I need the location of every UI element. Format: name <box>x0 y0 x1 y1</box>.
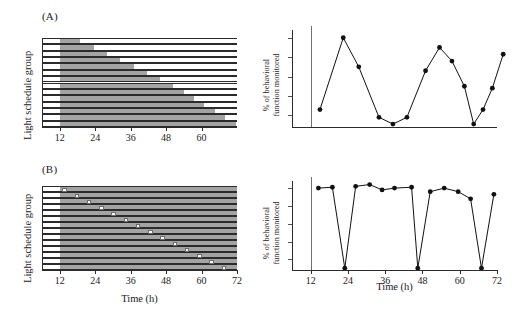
actogram-light-block <box>60 39 81 43</box>
actogram-light-block <box>60 122 236 126</box>
data-point <box>428 189 433 194</box>
data-point <box>353 184 358 189</box>
panel-a-actogram <box>42 38 237 127</box>
data-point <box>380 188 385 193</box>
panel-b-line-vline <box>311 177 312 270</box>
x-tick <box>131 270 132 274</box>
panel-b-actogram <box>42 186 237 270</box>
y-tick <box>288 259 292 260</box>
x-tick-label: 60 <box>197 275 207 286</box>
x-tick-label: 72 <box>492 275 502 286</box>
panel-a-line-vline <box>311 26 312 127</box>
y-tick <box>288 77 292 78</box>
panel-a: (A) Light schedule group 1224364860 % of… <box>0 0 520 158</box>
panel-b-actogram-rows <box>42 186 237 270</box>
x-tick-label: 12 <box>306 275 316 286</box>
data-point <box>481 107 486 112</box>
actogram-light-block <box>60 45 94 49</box>
actogram-light-block <box>60 109 215 113</box>
x-tick-label: 36 <box>126 132 136 143</box>
panel-b-line-ylabel-1: % of behavioral <box>262 183 272 283</box>
data-point <box>356 64 361 69</box>
panel-b-actogram-xtitle: Time (h) <box>121 293 158 304</box>
panel-a-actogram-yaxis <box>42 38 43 127</box>
actogram-light-block <box>60 90 184 94</box>
data-point <box>442 186 447 191</box>
panel-a-line-ylabel-2: function monitored <box>272 30 282 140</box>
actogram-light-block <box>60 187 237 191</box>
data-point <box>491 192 496 197</box>
actogram-light-block <box>60 241 237 245</box>
data-point <box>367 182 372 187</box>
data-point <box>391 122 396 127</box>
x-tick-label: 12 <box>55 275 65 286</box>
panel-b-line-ylabel-2: function monitored <box>272 183 282 283</box>
line-path <box>320 38 503 124</box>
x-tick <box>95 127 96 131</box>
panel-b-actogram-ylabel: Light schedule group <box>22 194 33 283</box>
data-point <box>330 185 335 190</box>
actogram-light-block <box>60 211 237 215</box>
y-tick <box>288 242 292 243</box>
panel-a-line-series <box>292 30 497 127</box>
panel-a-actogram-rows <box>42 38 237 127</box>
x-tick <box>460 270 461 274</box>
x-tick-label: 48 <box>417 275 427 286</box>
actogram-light-block <box>60 235 237 239</box>
actogram-light-block <box>60 247 237 251</box>
data-point <box>318 107 323 112</box>
actogram-light-block <box>60 253 237 257</box>
panel-a-actogram-xaxis <box>42 127 237 128</box>
panel-b-line-yaxis <box>292 181 293 270</box>
line-path <box>318 185 493 269</box>
panel-b-line-series <box>292 181 497 270</box>
panel-b: (B) Light schedule group 122436486072 Ti… <box>0 155 520 313</box>
panel-a-line-ylabel: % of behavioral function monitored <box>262 30 281 140</box>
actogram-light-block <box>60 265 237 269</box>
panel-a-line-yaxis <box>292 30 293 127</box>
x-tick-label: 12 <box>55 132 65 143</box>
x-tick-label: 60 <box>197 132 207 143</box>
actogram-light-block <box>60 205 237 209</box>
panel-a-line-xaxis <box>292 127 497 128</box>
actogram-light-block <box>60 52 107 56</box>
y-tick <box>288 96 292 97</box>
actogram-light-block <box>60 217 237 221</box>
y-tick <box>288 115 292 116</box>
x-tick <box>95 270 96 274</box>
x-tick <box>348 270 349 274</box>
actogram-light-block <box>60 84 174 88</box>
x-tick-label: 72 <box>232 275 242 286</box>
panel-b-line-xtitle: Time (h) <box>376 281 413 292</box>
y-tick <box>288 224 292 225</box>
panel-a-line-ylabel-1: % of behavioral <box>262 30 272 140</box>
y-tick <box>288 38 292 39</box>
actogram-light-block <box>60 96 194 100</box>
data-point <box>462 84 467 89</box>
data-point <box>409 185 414 190</box>
x-tick <box>202 127 203 131</box>
actogram-light-block <box>60 103 205 107</box>
data-point <box>377 115 382 120</box>
x-tick-label: 60 <box>455 275 465 286</box>
data-point <box>471 122 476 127</box>
actogram-light-block <box>60 71 147 75</box>
figure-root: (A) Light schedule group 1224364860 % of… <box>0 0 520 313</box>
x-tick-label: 24 <box>90 132 100 143</box>
data-point <box>501 52 506 57</box>
x-tick <box>422 270 423 274</box>
actogram-light-block <box>60 64 134 68</box>
panel-b-actogram-yaxis <box>42 186 43 270</box>
panel-a-label: (A) <box>42 10 58 22</box>
x-tick-label: 24 <box>90 275 100 286</box>
panel-b-line-xaxis <box>292 270 497 271</box>
panel-a-actogram-ylabel: Light schedule group <box>22 51 33 140</box>
actogram-light-block <box>60 115 225 119</box>
x-tick-label: 48 <box>161 275 171 286</box>
x-tick <box>131 127 132 131</box>
data-point <box>468 196 473 201</box>
panel-b-line-ylabel: % of behavioral function monitored <box>262 183 281 283</box>
x-tick-label: 36 <box>126 275 136 286</box>
x-tick-label: 24 <box>343 275 353 286</box>
x-tick <box>385 270 386 274</box>
